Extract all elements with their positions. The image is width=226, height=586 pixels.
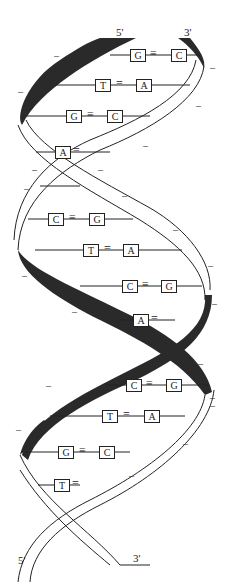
hydrogen-bond: ≡ [146, 378, 152, 389]
base-right: C [107, 110, 123, 123]
hydrogen-bond: ≡ [87, 109, 93, 120]
phosphate-charge: – [72, 306, 77, 317]
phosphate-charge: – [122, 190, 127, 201]
phosphate-charge: – [129, 470, 134, 481]
base-left: T [95, 79, 111, 92]
phosphate-charge: – [22, 270, 27, 281]
phosphate-charge: – [183, 438, 188, 449]
hydrogen-bond: ≡ [142, 279, 148, 290]
phosphate-charge: – [18, 86, 23, 97]
phosphate-charge: – [46, 380, 51, 391]
base-left: G [58, 446, 74, 459]
base-right: G [89, 213, 105, 226]
base-left: C [48, 213, 64, 226]
base-left: G [130, 49, 146, 62]
dna-helix-drawing [0, 0, 226, 586]
base-right: A [144, 410, 160, 423]
hydrogen-bond: = [151, 313, 157, 324]
strand-ribbon-dark-lower [20, 420, 50, 455]
phosphate-charge: – [173, 224, 178, 235]
base-left: T [83, 244, 99, 257]
strand-end-top-3prime: 3' [184, 26, 191, 38]
hydrogen-bond: ≡ [79, 445, 85, 456]
base-left: T [102, 410, 118, 423]
hydrogen-bond: = [123, 409, 129, 420]
phosphate-charge: – [210, 62, 215, 73]
strand-end-bottom-3prime: 3' [133, 552, 140, 564]
phosphate-charge: – [54, 50, 59, 61]
phosphate-charge: – [98, 164, 103, 175]
base-left: G [66, 110, 82, 123]
strand-end-top-5prime: 5' [116, 26, 123, 38]
base-right: A [123, 244, 139, 257]
strand-ribbon-dark-middle [18, 250, 212, 395]
hydrogen-bond: = [116, 78, 122, 89]
phosphate-charge: – [16, 424, 21, 435]
phosphate-charge: – [198, 358, 203, 369]
base-right: C [99, 446, 115, 459]
hydrogen-bond: ≡ [69, 212, 75, 223]
phosphate-charge: – [212, 298, 217, 309]
phosphate-charge: – [196, 100, 201, 111]
base-left: A [133, 314, 149, 327]
base-left: C [122, 280, 138, 293]
phosphate-charge: – [208, 260, 213, 271]
base-left: T [54, 479, 70, 492]
hydrogen-bond: = [73, 145, 79, 156]
hydrogen-bond: = [104, 243, 110, 254]
hydrogen-bond: ≡ [150, 48, 156, 59]
hydrogen-bond: = [72, 478, 78, 489]
base-left: C [126, 379, 142, 392]
base-right: A [136, 79, 152, 92]
base-left: A [55, 146, 71, 159]
strand-end-bottom-5prime: 5' [18, 554, 25, 566]
phosphate-charge: – [210, 400, 215, 411]
base-right: G [161, 280, 177, 293]
phosphate-charge: – [32, 164, 37, 175]
base-right: C [171, 49, 187, 62]
base-right: G [166, 379, 182, 392]
phosphate-charge: – [143, 140, 148, 151]
phosphate-charge: – [24, 183, 29, 194]
